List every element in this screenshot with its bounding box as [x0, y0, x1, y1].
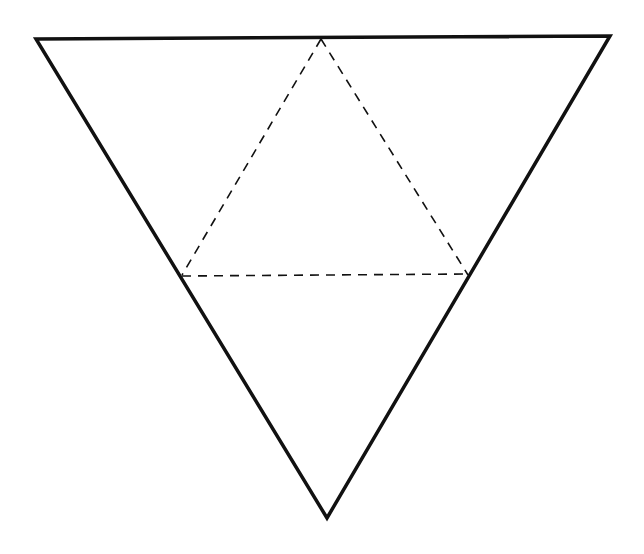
fold-lines [182, 39, 468, 276]
left-fold-line [182, 39, 321, 275]
triangle-net-diagram [0, 0, 644, 554]
bottom-fold-line [182, 274, 468, 276]
outer-triangle [36, 36, 610, 518]
right-fold-line [321, 39, 468, 275]
